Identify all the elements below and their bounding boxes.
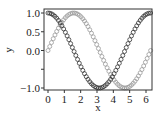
y-tick-label: 0.5 xyxy=(26,26,40,38)
data-point xyxy=(70,46,74,50)
data-point xyxy=(76,57,80,61)
data-point xyxy=(67,38,71,42)
data-point xyxy=(143,60,147,64)
data-point xyxy=(102,58,106,62)
y-axis: −1.00.00.51.0 xyxy=(20,7,44,94)
data-point xyxy=(147,52,151,56)
data-point xyxy=(124,46,128,50)
x-tick-label: 2 xyxy=(78,93,84,105)
plot-area xyxy=(46,11,153,90)
data-point xyxy=(74,53,78,57)
data-point xyxy=(119,57,123,61)
data-point xyxy=(123,50,127,54)
data-point xyxy=(48,45,52,49)
y-tick-label: 0.0 xyxy=(26,45,40,57)
data-point xyxy=(72,50,76,54)
data-point xyxy=(96,47,100,51)
data-point xyxy=(117,61,121,65)
data-point xyxy=(121,53,125,57)
chart: 0123456 −1.00.00.51.0 x y xyxy=(0,0,158,120)
data-point xyxy=(100,54,104,58)
y-axis-label: y xyxy=(2,47,14,53)
data-point xyxy=(126,42,130,46)
data-point xyxy=(46,49,50,53)
y-tick-label: 1.0 xyxy=(26,7,40,19)
data-point xyxy=(91,35,95,39)
x-tick-label: 5 xyxy=(127,93,133,105)
data-point xyxy=(93,39,97,43)
data-point xyxy=(145,56,149,60)
x-tick-label: 6 xyxy=(143,93,149,105)
x-tick-label: 0 xyxy=(45,93,51,105)
y-tick-label: −1.0 xyxy=(20,82,40,94)
data-point xyxy=(49,41,53,45)
data-point xyxy=(98,51,102,55)
x-tick-label: 4 xyxy=(111,93,117,105)
x-tick-label: 1 xyxy=(62,93,68,105)
x-axis-label: x xyxy=(95,101,101,113)
data-point xyxy=(95,43,99,47)
data-point xyxy=(69,42,73,46)
